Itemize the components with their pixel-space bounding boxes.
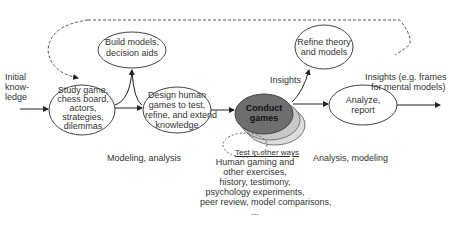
refine-label: Refine theory and models — [295, 37, 353, 57]
modeling-analysis-label: Modeling, analysis — [107, 153, 181, 163]
text: Design human — [145, 90, 209, 100]
text: refine, and extend — [145, 110, 209, 120]
text: report — [333, 105, 393, 115]
text: Initial — [5, 72, 29, 82]
text: ... — [200, 207, 310, 217]
text: Build models, — [100, 37, 164, 48]
text: Refine theory — [295, 37, 353, 47]
text: knowledge — [145, 120, 209, 130]
text: decision aids — [100, 48, 164, 59]
text: history, testimony, — [200, 177, 310, 187]
text: games — [238, 113, 290, 123]
study-label: Study game, chess board, actors, strateg… — [56, 86, 110, 131]
build-label: Build models, decision aids — [100, 37, 164, 59]
text: for mental models) — [365, 82, 447, 92]
text: dilemmas — [56, 122, 110, 131]
initial-knowledge-label: Initial know- ledge — [5, 72, 29, 102]
design-label: Design human games to test, refine, and … — [145, 90, 209, 130]
text: peer review, model comparisons, — [200, 197, 310, 207]
text: Human gaming and — [200, 157, 310, 167]
other-methods-label: Human gaming and other exercises, histor… — [200, 157, 310, 217]
insights-output-label: Insights (e.g. frames for mental models) — [365, 72, 447, 92]
analyze-label: Analyze, report — [333, 95, 393, 115]
text: know- — [5, 82, 29, 92]
text: and models — [295, 47, 353, 57]
conduct-label: Conduct games — [238, 103, 290, 123]
text: games to test, — [145, 100, 209, 110]
text: Conduct — [238, 103, 290, 113]
analysis-modeling-label: Analysis, modeling — [313, 153, 388, 163]
text: ledge — [5, 92, 29, 102]
text: other exercises, — [200, 167, 310, 177]
text: Analyze, — [333, 95, 393, 105]
text: Insights (e.g. frames — [365, 72, 447, 82]
insights-label: Insights — [270, 75, 301, 85]
text: psychology experiments, — [200, 187, 310, 197]
